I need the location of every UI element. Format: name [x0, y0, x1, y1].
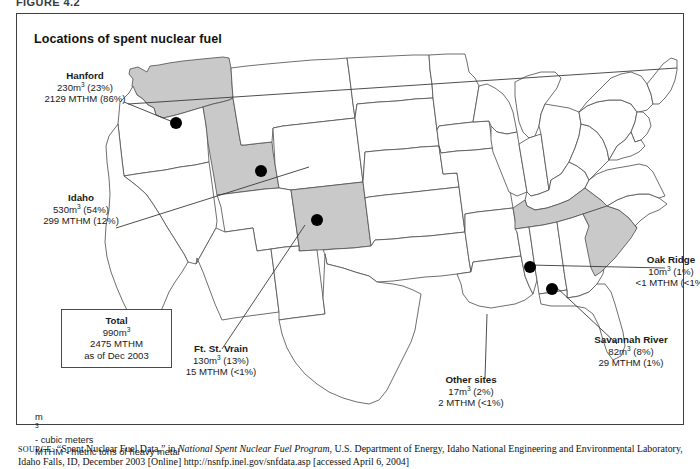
source-label: SOURCE: — [18, 445, 54, 454]
site-marker-idaho[interactable] — [255, 165, 267, 177]
callout-oak-ridge: Oak Ridge 10m3 (1%) <1 MTHM (<1%) — [609, 254, 700, 289]
callout-other-sites-mthm: 2 MTHM (<1%) — [407, 397, 535, 409]
callout-hanford: Hanford 230m3 (23%) 2129 MTHM (86%) — [23, 70, 147, 105]
callout-savannah-river: Savannah River 82m3 (8%) 29 MTHM (1%) — [565, 334, 697, 369]
total-box-mthm: 2475 MTHM — [64, 338, 169, 350]
site-marker-ft-st-vrain[interactable] — [311, 214, 323, 226]
source-italic-title: National Spent Nuclear Fuel Program, — [178, 443, 332, 454]
state-new-england — [647, 58, 677, 104]
source-citation: SOURCE: “Spent Nuclear Fuel Data,” in Na… — [18, 443, 686, 469]
total-box-title: Total — [64, 315, 169, 327]
callout-ft-st-vrain-title: Ft. St. Vrain — [157, 343, 285, 355]
site-marker-savannah-river[interactable] — [546, 283, 558, 295]
callout-idaho-title: Idaho — [19, 192, 143, 204]
figure-frame: Locations of spent nuclear fuel — [16, 13, 684, 425]
callout-other-sites: Other sites 17m3 (2%) 2 MTHM (<1%) — [407, 374, 535, 409]
callout-hanford-mthm: 2129 MTHM (86%) — [23, 93, 147, 105]
callout-idaho-mthm: 299 MTHM (12%) — [19, 215, 143, 227]
callout-savannah-river-volume: 82m3 (8%) — [565, 346, 697, 358]
site-marker-oak-ridge[interactable] — [524, 261, 536, 273]
state-colorado — [291, 182, 371, 251]
source-text-1: “Spent Nuclear Fuel Data,” in — [54, 443, 178, 454]
leader-line-othersites — [485, 314, 487, 378]
callout-savannah-river-title: Savannah River — [565, 334, 697, 346]
callout-ft-st-vrain: Ft. St. Vrain 130m3 (13%) 15 MTHM (<1%) — [157, 343, 285, 378]
callout-idaho-volume: 530m3 (54%) — [19, 204, 143, 216]
legend-line-volume: m3 - cubic meters — [35, 412, 180, 447]
callout-hanford-title: Hanford — [23, 70, 147, 82]
map-stage: Hanford 230m3 (23%) 2129 MTHM (86%) Idah… — [17, 14, 685, 426]
total-box-volume: 990m3 — [64, 327, 169, 339]
callout-savannah-river-mthm: 29 MTHM (1%) — [565, 357, 697, 369]
state-minnesota — [429, 54, 479, 130]
state-iowa — [437, 121, 493, 153]
callout-other-sites-title: Other sites — [407, 374, 535, 386]
site-marker-hanford[interactable] — [170, 117, 182, 129]
callout-hanford-volume: 230m3 (23%) — [23, 82, 147, 94]
callout-ft-st-vrain-mthm: 15 MTHM (<1%) — [157, 366, 285, 378]
total-summary-box: Total 990m3 2475 MTHM as of Dec 2003 — [61, 309, 172, 368]
callout-other-sites-volume: 17m3 (2%) — [407, 386, 535, 398]
callout-idaho: Idaho 530m3 (54%) 299 MTHM (12%) — [19, 192, 143, 227]
callout-oak-ridge-mthm: <1 MTHM (<1%) — [609, 277, 700, 289]
figure-number-label: FIGURE 4.2 — [16, 0, 80, 8]
callout-ft-st-vrain-volume: 130m3 (13%) — [157, 355, 285, 367]
state-wyoming — [273, 118, 363, 190]
callout-oak-ridge-title: Oak Ridge — [609, 254, 700, 266]
callout-oak-ridge-volume: 10m3 (1%) — [609, 266, 700, 278]
total-box-asof: as of Dec 2003 — [64, 350, 169, 362]
state-new-mexico — [271, 246, 325, 320]
